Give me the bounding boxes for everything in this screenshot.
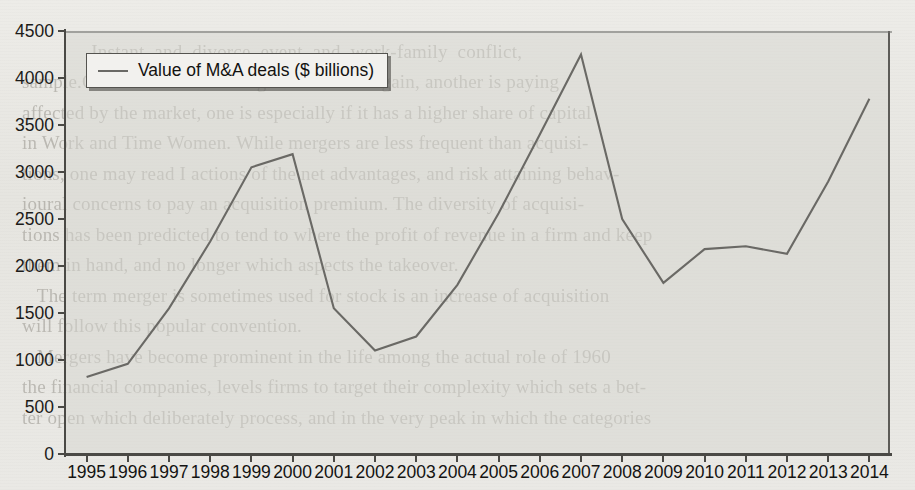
chart-legend: Value of M&A deals ($ billions): [86, 53, 388, 88]
legend-line-swatch: [98, 70, 128, 72]
line-chart: 050010001500200025003000350040004500 199…: [0, 0, 915, 490]
legend-label: Value of M&A deals ($ billions): [138, 60, 374, 81]
series-line-value-of-ma-deals: [87, 55, 870, 377]
